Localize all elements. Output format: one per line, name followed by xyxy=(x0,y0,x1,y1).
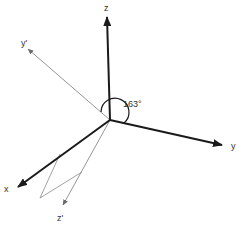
projection-lines xyxy=(40,154,82,198)
z-axis-label: z xyxy=(104,3,109,13)
x-axis xyxy=(18,120,110,187)
y-axis xyxy=(110,120,222,145)
x-axis-label: x xyxy=(4,184,9,194)
y-axis-label: y xyxy=(231,141,236,151)
z-prime-axis-label: z' xyxy=(57,213,64,223)
y-prime-axis-label: y' xyxy=(21,38,28,48)
y-prime-axis xyxy=(28,49,110,120)
z-axis xyxy=(107,17,110,120)
coordinate-axes-diagram: 163° z y x y' z' xyxy=(0,0,246,230)
z-prime-axis xyxy=(63,120,110,205)
angle-label: 163° xyxy=(123,99,142,109)
